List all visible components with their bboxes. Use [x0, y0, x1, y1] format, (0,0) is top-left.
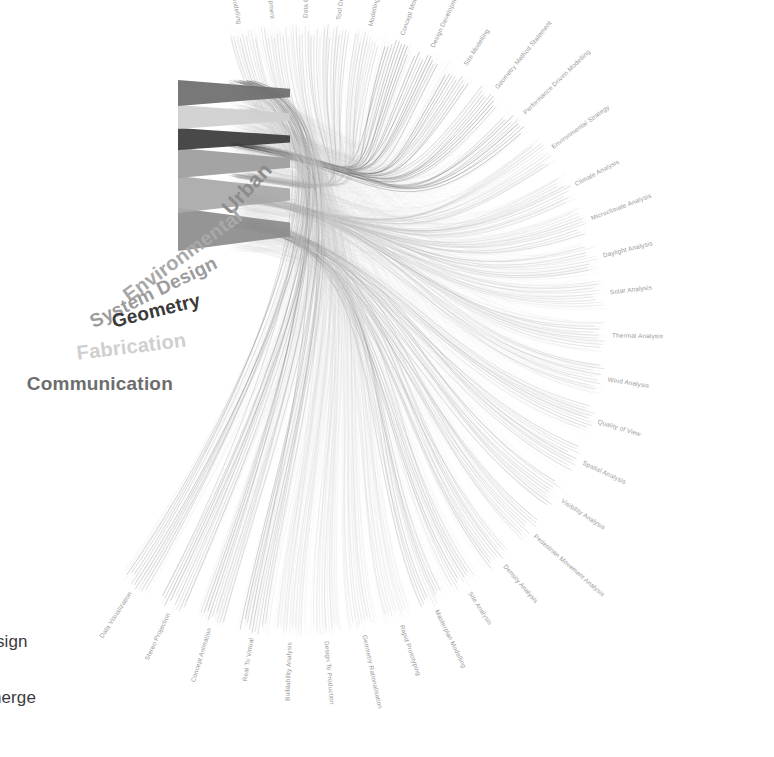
- caption-fragment: sign: [0, 632, 28, 652]
- chord-canvas: [0, 0, 774, 757]
- radial-chord-figure: UrbanEnvironmentalSystem DesignGeometryF…: [0, 0, 774, 757]
- caption-fragment: nerge: [0, 688, 36, 708]
